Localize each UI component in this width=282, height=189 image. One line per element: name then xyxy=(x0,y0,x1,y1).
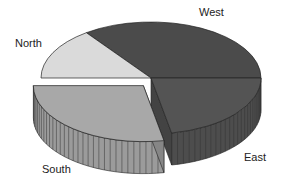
label-south: South xyxy=(42,163,71,175)
slice-south xyxy=(33,86,164,174)
pie-chart xyxy=(0,0,282,189)
label-north: North xyxy=(15,37,42,49)
label-east: East xyxy=(244,151,266,163)
label-west: West xyxy=(199,6,224,18)
